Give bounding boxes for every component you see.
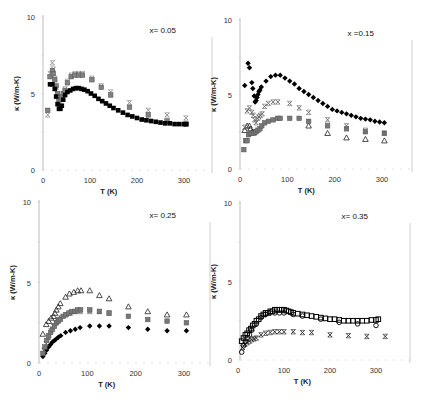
data-point-x xyxy=(260,112,264,116)
x-tick-label: 200 xyxy=(129,369,142,378)
data-point-diamond xyxy=(249,80,254,85)
data-point-open-square xyxy=(346,318,351,323)
composition-annotation: x= 0.25 xyxy=(150,211,177,220)
data-point-triangle xyxy=(363,136,369,141)
data-point-square xyxy=(80,73,85,78)
data-point-x xyxy=(306,110,310,114)
data-point-open-square xyxy=(351,318,356,323)
data-point-diamond xyxy=(263,78,268,83)
x-tick-label: 200 xyxy=(131,176,144,185)
data-point-x xyxy=(276,100,280,104)
y-tick-label: 10 xyxy=(224,199,232,208)
data-point-diamond xyxy=(282,75,287,80)
y-axis-title: κ (W/m-K) xyxy=(8,264,17,300)
data-point-diamond xyxy=(320,101,325,106)
x-tick-label: 0 xyxy=(236,366,240,375)
data-point-x xyxy=(291,330,295,334)
data-point-triangle xyxy=(126,304,132,309)
data-point-square xyxy=(271,118,276,123)
y-tick-label: 5 xyxy=(228,91,232,100)
x-tick-label: 100 xyxy=(278,366,291,375)
data-point-diamond xyxy=(73,326,78,331)
data-point-square xyxy=(146,113,151,118)
data-point-square xyxy=(127,105,132,110)
data-point-diamond xyxy=(367,117,372,122)
composition-annotation: x= 0.35 xyxy=(342,212,369,221)
x-tick-label: 100 xyxy=(281,175,294,184)
data-point-triangle xyxy=(344,135,350,140)
data-point-diamond xyxy=(330,107,335,112)
data-point-open-square xyxy=(305,313,310,318)
data-point-square xyxy=(87,308,92,313)
data-point-square xyxy=(145,317,150,322)
data-point-circle xyxy=(374,323,379,328)
data-point-open-square xyxy=(332,317,337,322)
data-point-triangle xyxy=(97,293,103,298)
data-point-triangle xyxy=(52,310,58,315)
data-point-diamond xyxy=(311,95,316,100)
y-tick-label: 5 xyxy=(31,90,35,99)
data-point-x xyxy=(50,61,54,65)
x-tick-label: 0 xyxy=(37,369,41,378)
data-point-diamond xyxy=(164,328,169,333)
x-tick-label: 100 xyxy=(84,176,97,185)
data-point-diamond xyxy=(363,116,368,121)
data-point-x xyxy=(309,330,313,334)
data-point-x xyxy=(165,113,169,117)
data-point-open-square xyxy=(323,316,328,321)
data-point-x xyxy=(263,331,267,335)
y-tick-label: 10 xyxy=(23,198,31,207)
composition-annotation: x =0.15 xyxy=(348,29,375,38)
data-point-x xyxy=(46,113,50,117)
data-point-x xyxy=(127,100,131,104)
data-point-x xyxy=(365,334,369,338)
data-point-x xyxy=(243,125,247,129)
data-point-square xyxy=(135,116,140,121)
data-point-diamond xyxy=(247,65,252,70)
data-point-square xyxy=(158,120,163,125)
data-point-square xyxy=(306,119,311,124)
x-tick-label: 300 xyxy=(370,366,383,375)
x-tick-label: 300 xyxy=(178,176,191,185)
data-point-square xyxy=(41,351,46,356)
data-point-diamond xyxy=(325,104,330,109)
data-point-square xyxy=(121,110,126,115)
data-point-diamond xyxy=(184,328,189,333)
data-series-series-3 xyxy=(240,330,387,350)
data-point-diamond xyxy=(306,92,311,97)
data-point-x xyxy=(146,108,150,112)
data-point-diamond xyxy=(97,323,102,328)
data-point-square xyxy=(45,108,50,113)
data-point-x xyxy=(262,104,266,108)
x-tick-label: 300 xyxy=(178,369,191,378)
y-tick-label: 0 xyxy=(31,166,35,175)
data-point-square xyxy=(111,106,116,111)
data-point-diamond xyxy=(339,110,344,115)
data-point-diamond xyxy=(126,325,131,330)
data-point-diamond xyxy=(315,98,320,103)
data-point-square xyxy=(297,116,302,121)
data-point-square xyxy=(154,120,159,125)
data-point-diamond xyxy=(358,116,363,121)
data-point-square xyxy=(61,97,66,102)
y-tick-label: 5 xyxy=(27,279,31,288)
data-point-square xyxy=(108,93,113,98)
data-point-circle xyxy=(319,317,324,322)
data-point-diamond xyxy=(296,86,301,91)
data-point-open-square xyxy=(309,314,314,319)
chart-panel-panel-x015: 05100100200300T (K)κ (W/m-K)x =0.15 xyxy=(209,16,412,195)
data-point-x xyxy=(346,333,350,337)
data-point-open-square xyxy=(342,318,347,323)
data-point-square xyxy=(50,82,55,87)
composition-annotation: x= 0.05 xyxy=(150,26,177,35)
y-axis-title: κ (W/m-K) xyxy=(209,263,218,299)
data-point-x xyxy=(325,118,329,122)
data-point-open-square xyxy=(328,317,333,322)
figure-canvas: 05100100200300T (K)κ (W/m-K)x= 0.0505100… xyxy=(0,0,423,406)
data-point-square xyxy=(126,314,131,319)
y-tick-label: 0 xyxy=(228,356,232,365)
chart-panel-panel-x005: 05100100200300T (K)κ (W/m-K)x= 0.05 xyxy=(12,13,212,196)
data-point-square xyxy=(43,345,48,350)
data-point-open-square xyxy=(360,318,365,323)
data-point-diamond xyxy=(68,328,73,333)
